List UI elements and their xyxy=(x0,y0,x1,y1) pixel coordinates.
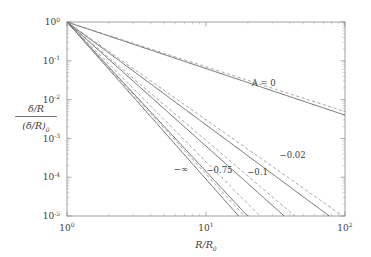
curve-label-Am01: −0.1 xyxy=(247,167,268,177)
curve-label-Am002: −0.02 xyxy=(280,150,306,160)
log-log-chart: 10010110210010-110-210-310-410-5 A = 0−0… xyxy=(0,0,371,257)
chart-background xyxy=(0,0,371,257)
y-axis-title-numerator: δ/R xyxy=(28,103,44,114)
figure-container: 10010110210010-110-210-310-410-5 A = 0−0… xyxy=(0,0,371,257)
y-axis-title-denominator: (δ/R)0 xyxy=(22,120,50,133)
curve-label-Am075: −0.75 xyxy=(206,165,232,175)
curve-label-Aminf: −∞ xyxy=(174,164,188,174)
curve-label-A0: A = 0 xyxy=(251,78,276,88)
